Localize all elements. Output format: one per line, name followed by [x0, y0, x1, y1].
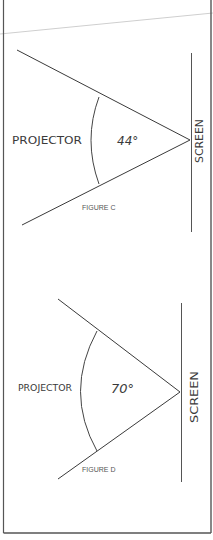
projector-angle-diagrams: PROJECTOR 44° FIGURE C SCREEN PROJECTOR … — [0, 0, 213, 540]
figure-caption: FIGURE D — [82, 466, 115, 473]
figure-caption: FIGURE C — [82, 204, 115, 211]
paper-fold-line — [0, 13, 213, 34]
angle-arc — [81, 331, 98, 451]
figure-c: PROJECTOR 44° FIGURE C SCREEN — [12, 50, 205, 232]
screen-label: SCREEN — [194, 119, 205, 163]
angle-arc — [91, 97, 99, 184]
figure-d: PROJECTOR 70° FIGURE D SCREEN — [18, 299, 201, 482]
projection-ray-lower — [22, 140, 190, 225]
projector-label: PROJECTOR — [18, 382, 72, 393]
projector-label: PROJECTOR — [12, 134, 82, 146]
angle-label: 44° — [117, 134, 138, 148]
diagram-page: PROJECTOR 44° FIGURE C SCREEN PROJECTOR … — [0, 0, 213, 540]
screen-label: SCREEN — [188, 371, 201, 423]
projection-ray-upper — [58, 299, 180, 392]
angle-label: 70° — [111, 381, 134, 396]
projection-ray-upper — [17, 50, 190, 140]
projection-ray-lower — [58, 392, 180, 479]
